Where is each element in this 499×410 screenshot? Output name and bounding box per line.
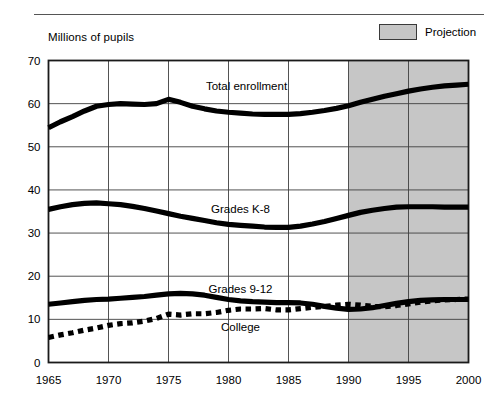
x-axis-tick-label: 1975 xyxy=(156,374,182,386)
y-axis-tick-label: 10 xyxy=(28,313,41,325)
y-axis-tick-label: 30 xyxy=(28,227,41,239)
y-axis-tick-label: 40 xyxy=(28,184,41,196)
y-axis-tick-label: 20 xyxy=(28,270,41,282)
series-annotation-grades-k-8: Grades K-8 xyxy=(211,203,270,215)
x-axis-tick-label: 1970 xyxy=(96,374,122,386)
enrollment-chart-figure: Millions of pupils Projection 0102030405… xyxy=(0,0,499,410)
x-axis-tick-label: 1965 xyxy=(36,374,62,386)
series-annotation-grades-9-12: Grades 9-12 xyxy=(209,283,273,295)
x-axis-tick-label: 1995 xyxy=(396,374,422,386)
x-axis-tick-label: 2000 xyxy=(456,374,482,386)
y-axis-tick-label: 60 xyxy=(28,98,41,110)
x-axis-tick-label: 1990 xyxy=(336,374,362,386)
x-axis-tick-label: 1980 xyxy=(216,374,242,386)
series-annotation-total-enrollment: Total enrollment xyxy=(206,80,288,92)
y-axis-tick-label: 50 xyxy=(28,141,41,153)
series-annotation-college: College xyxy=(221,321,260,333)
x-axis-tick-label: 1985 xyxy=(276,374,302,386)
y-axis-tick-label: 0 xyxy=(34,357,40,369)
chart-plot-area: 0102030405060701965197019751980198519901… xyxy=(0,0,499,410)
y-axis-tick-label: 70 xyxy=(28,55,41,67)
